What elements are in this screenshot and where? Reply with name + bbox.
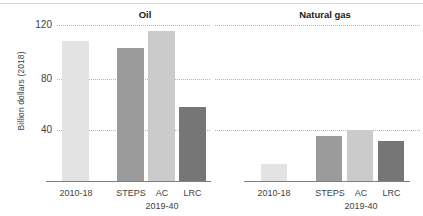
bar-oil-2010-18[interactable]	[62, 41, 89, 181]
x-axis-line-oil	[46, 181, 211, 182]
bar-oil-steps[interactable]	[117, 48, 144, 181]
x-tick-label-gas-lrc: LRC	[375, 188, 408, 198]
x-tick-label-gas-ac: AC	[346, 188, 376, 198]
chart-figure: Billion dollars (2018) 120 80 40 Oil 201…	[0, 0, 423, 216]
bar-oil-ac[interactable]	[148, 31, 175, 181]
panel-natural-gas: Natural gas 2010-18 STEPS AC LRC 2019-40	[212, 0, 423, 216]
panel-oil: Oil 2010-18 STEPS AC LRC 2019-40	[0, 0, 212, 216]
group-label-oil-projection: 2019-40	[122, 201, 202, 211]
bar-gas-lrc[interactable]	[378, 141, 404, 181]
x-tick-label-oil-steps: STEPS	[110, 188, 152, 198]
group-label-gas-projection: 2019-40	[321, 201, 401, 211]
bar-gas-ac[interactable]	[347, 130, 373, 181]
x-axis-line-natural-gas	[244, 181, 410, 182]
x-tick-label-gas-historical: 2010-18	[243, 188, 305, 198]
x-tick-label-oil-ac: AC	[147, 188, 177, 198]
x-tick-label-oil-lrc: LRC	[176, 188, 209, 198]
x-tick-label-oil-historical: 2010-18	[45, 188, 107, 198]
x-tick-label-gas-steps: STEPS	[309, 188, 351, 198]
panel-title-natural-gas: Natural gas	[275, 9, 375, 20]
bar-gas-steps[interactable]	[316, 136, 342, 181]
bar-oil-lrc[interactable]	[179, 107, 206, 181]
bar-gas-2010-18[interactable]	[261, 164, 287, 181]
panel-title-oil: Oil	[105, 9, 185, 20]
